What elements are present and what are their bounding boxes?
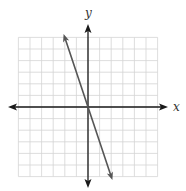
y-axis-label: y bbox=[84, 6, 92, 20]
x-axis-label: x bbox=[173, 100, 180, 114]
coordinate-plane: x y bbox=[0, 0, 186, 191]
